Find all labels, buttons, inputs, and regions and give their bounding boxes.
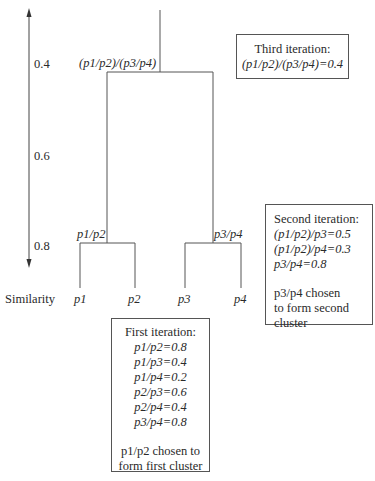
node-label-root: (p1/p2)/(p3/p4) xyxy=(79,56,156,70)
first-iteration-title: First iteration: xyxy=(112,325,209,340)
first-iteration-note: p1/p2 chosen to xyxy=(112,444,209,459)
third-iteration-box: Third iteration: (p1/p2)/(p3/p4)=0.4 xyxy=(236,34,349,79)
axis-label-similarity: Similarity xyxy=(5,292,55,306)
third-iteration-title: Third iteration: xyxy=(237,42,348,57)
second-iteration-note: cluster xyxy=(274,316,372,331)
node-label-p1-p2: p1/p2 xyxy=(77,227,105,241)
tick-0.8: 0.8 xyxy=(34,239,50,253)
first-iteration-box: First iteration: p1/p2=0.8 p1/p3=0.4 p1/… xyxy=(111,318,210,472)
leaf-p1: p1 xyxy=(74,292,87,306)
first-iteration-line: p3/p4=0.8 xyxy=(112,415,209,430)
second-iteration-box: Second iteration: (p1/p2)/p3=0.5 (p1/p2)… xyxy=(265,204,373,325)
arrow-down-icon xyxy=(27,259,32,268)
second-iteration-note: p3/p4 chosen xyxy=(274,286,372,301)
leaf-p3: p3 xyxy=(178,292,191,306)
second-iteration-line: (p1/p2)/p3=0.5 xyxy=(274,227,372,242)
first-iteration-line: p1/p2=0.8 xyxy=(112,340,209,355)
second-iteration-line: (p1/p2)/p4=0.3 xyxy=(274,242,372,257)
first-iteration-line: p1/p4=0.2 xyxy=(112,370,209,385)
tick-0.6: 0.6 xyxy=(34,149,50,163)
arrow-up-icon xyxy=(27,8,32,17)
third-iteration-line: (p1/p2)/(p3/p4)=0.4 xyxy=(237,57,348,72)
first-iteration-line: p2/p3=0.6 xyxy=(112,385,209,400)
first-iteration-line: p2/p4=0.4 xyxy=(112,400,209,415)
node-label-p3-p4: p3/p4 xyxy=(214,227,242,241)
first-iteration-note: form first cluster xyxy=(112,459,209,474)
tick-0.4: 0.4 xyxy=(34,57,50,71)
second-iteration-note: to form second xyxy=(274,301,372,316)
leaf-p2: p2 xyxy=(128,292,141,306)
second-iteration-line: p3/p4=0.8 xyxy=(274,257,372,272)
first-iteration-line: p1/p3=0.4 xyxy=(112,355,209,370)
second-iteration-title: Second iteration: xyxy=(274,212,372,227)
leaf-p4: p4 xyxy=(234,292,247,306)
